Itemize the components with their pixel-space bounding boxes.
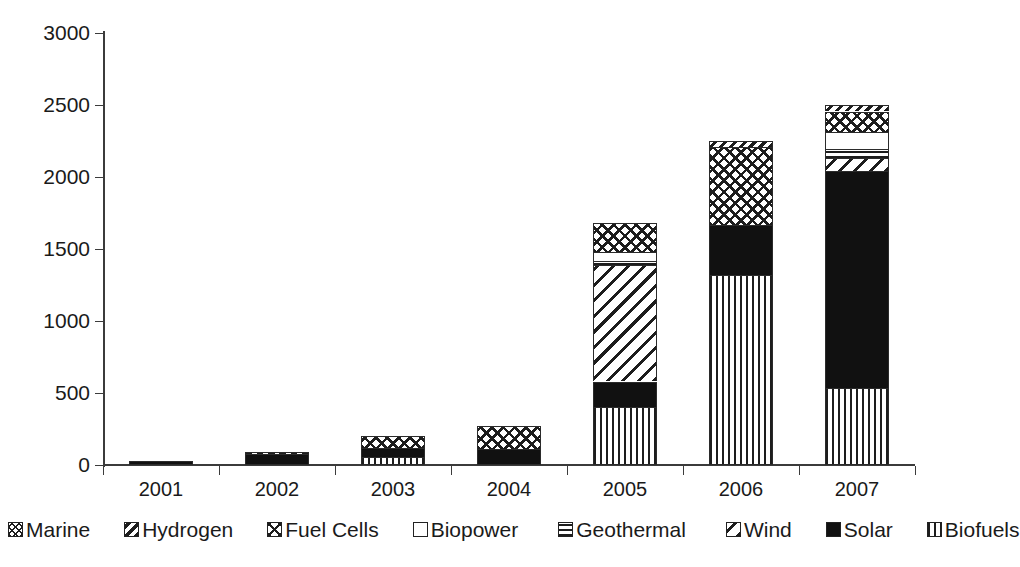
x-axis-tick [219, 466, 220, 475]
bar-segment-solar [477, 449, 541, 465]
plot-area [103, 33, 915, 465]
x-axis-tick [683, 466, 684, 475]
bar-segment-fuel-cells [361, 436, 425, 448]
legend-swatch-icon [267, 522, 282, 537]
bar-segment-biofuels [709, 275, 773, 465]
x-axis-tick [567, 466, 568, 475]
x-axis-tick [103, 466, 104, 475]
bar-segment-biopower [593, 252, 657, 261]
bar-segment-geothermal [825, 149, 889, 158]
bar-2004 [477, 33, 541, 465]
legend-label: Marine [26, 519, 90, 540]
legend-item-fuel-cells[interactable]: Fuel Cells [267, 519, 378, 540]
x-axis-tick-label: 2005 [570, 478, 680, 501]
bar-segment-geothermal [593, 261, 657, 265]
legend-item-marine[interactable]: Marine [8, 519, 90, 540]
legend-swatch-icon [8, 522, 23, 537]
bar-segment-fuel-cells [245, 452, 309, 454]
x-axis-tick-label: 2001 [106, 478, 216, 501]
legend-swatch-icon [413, 522, 428, 537]
bar-segment-solar [361, 448, 425, 457]
y-axis-tick-label: 1000 [6, 310, 90, 331]
bar-2002 [245, 33, 309, 465]
bar-segment-fuel-cells [477, 426, 541, 449]
bar-2001 [129, 33, 193, 465]
y-axis-tick-label: 1500 [6, 238, 90, 259]
bar-segment-fuel-cells [709, 147, 773, 225]
legend-label: Biofuels [945, 519, 1020, 540]
bar-segment-fuel-cells [825, 112, 889, 133]
legend-item-biopower[interactable]: Biopower [413, 519, 519, 540]
x-axis-tick-label: 2002 [222, 478, 332, 501]
legend-swatch-icon [124, 522, 139, 537]
bar-2006 [709, 33, 773, 465]
x-axis-tick-label: 2007 [802, 478, 912, 501]
legend-item-hydrogen[interactable]: Hydrogen [124, 519, 233, 540]
legend-label: Geothermal [576, 519, 686, 540]
bar-segment-fuel-cells [593, 223, 657, 252]
legend-swatch-icon [826, 522, 841, 537]
legend-item-wind[interactable]: Wind [726, 519, 792, 540]
x-axis-tick [335, 466, 336, 475]
bar-segment-wind [825, 158, 889, 170]
legend-swatch-icon [927, 522, 942, 537]
bar-2007 [825, 33, 889, 465]
legend-label: Fuel Cells [285, 519, 378, 540]
bar-segment-solar [593, 382, 657, 408]
bar-segment-biofuels [593, 407, 657, 465]
y-axis-tick-label: 2500 [6, 94, 90, 115]
bar-segment-biopower [825, 132, 889, 149]
bar-segment-solar [825, 171, 889, 388]
x-axis-tick-label: 2006 [686, 478, 796, 501]
legend-item-solar[interactable]: Solar [826, 519, 893, 540]
y-axis-tick-label: 3000 [6, 22, 90, 43]
bar-2003 [361, 33, 425, 465]
legend-item-biofuels[interactable]: Biofuels [927, 519, 1020, 540]
x-axis-tick [451, 466, 452, 475]
bar-segment-biofuels [361, 457, 425, 465]
bar-segment-solar [245, 454, 309, 465]
bar-segment-wind [593, 265, 657, 382]
legend-label: Hydrogen [142, 519, 233, 540]
bar-segment-solar [709, 225, 773, 275]
legend-item-geothermal[interactable]: Geothermal [558, 519, 686, 540]
x-axis-tick-label: 2004 [454, 478, 564, 501]
chart-legend: MarineHydrogenFuel CellsBiopowerGeotherm… [8, 512, 958, 546]
y-axis-tick-label: 0 [6, 454, 90, 475]
bar-segment-solar [129, 461, 193, 465]
y-axis-labels: 050010001500200025003000 [0, 0, 90, 567]
legend-label: Biopower [431, 519, 519, 540]
legend-swatch-icon [726, 522, 741, 537]
y-axis-tick-label: 2000 [6, 166, 90, 187]
bar-segment-biofuels [825, 388, 889, 465]
x-axis-tick [799, 466, 800, 475]
legend-swatch-icon [558, 522, 573, 537]
x-axis-tick [915, 466, 916, 475]
bar-segment-hydrogen [709, 141, 773, 147]
legend-label: Wind [744, 519, 792, 540]
legend-label: Solar [844, 519, 893, 540]
bar-2005 [593, 33, 657, 465]
x-axis-tick-label: 2003 [338, 478, 448, 501]
bar-segment-hydrogen [825, 105, 889, 111]
y-axis-tick-label: 500 [6, 382, 90, 403]
